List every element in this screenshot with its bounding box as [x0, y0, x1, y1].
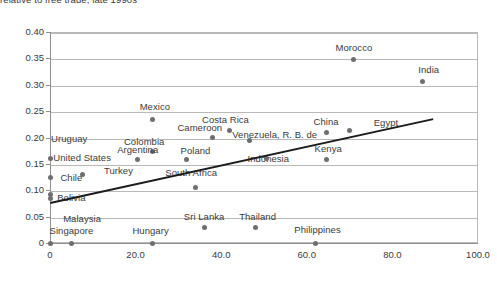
- data-point[interactable]: [69, 241, 74, 246]
- point-label: Morocco: [335, 42, 372, 53]
- point-label: United States: [53, 152, 111, 163]
- y-tick-mark: [46, 85, 50, 86]
- y-tick-label: 0.10: [0, 184, 44, 195]
- data-point[interactable]: [193, 185, 198, 190]
- y-tick-label: 0.05: [0, 211, 44, 222]
- data-point[interactable]: [253, 225, 258, 230]
- point-label: Mexico: [140, 101, 170, 112]
- chart-title: relative to free trade, late 1990s: [0, 0, 137, 5]
- point-label: Argentina: [117, 144, 158, 155]
- data-point[interactable]: [150, 241, 155, 246]
- y-tick-mark: [46, 58, 50, 59]
- x-tick-label: 100.0: [454, 249, 497, 260]
- point-label: Philippines: [294, 224, 341, 235]
- x-tick-label: 0: [26, 249, 74, 260]
- y-tick-label: 0: [0, 237, 44, 248]
- gridline: [51, 112, 477, 113]
- data-point[interactable]: [324, 130, 329, 135]
- y-tick-label: 0.15: [0, 158, 44, 169]
- data-point[interactable]: [48, 156, 53, 161]
- point-label: Poland: [181, 145, 211, 156]
- x-tick-label: 60.0: [283, 249, 331, 260]
- y-tick-mark: [46, 217, 50, 218]
- data-point[interactable]: [48, 196, 53, 201]
- gridline: [51, 86, 477, 87]
- data-point[interactable]: [324, 157, 329, 162]
- point-label: Singapore: [50, 225, 94, 236]
- y-tick-label: 0.30: [0, 79, 44, 90]
- y-tick-label: 0.20: [0, 132, 44, 143]
- point-label: Cameroon: [177, 122, 222, 133]
- y-tick-label: 0.40: [0, 26, 44, 37]
- y-tick-mark: [46, 32, 50, 33]
- y-tick-mark: [46, 138, 50, 139]
- point-label: Venezuela, R. B. de: [232, 129, 317, 140]
- y-tick-label: 0.25: [0, 105, 44, 116]
- x-axis-line: [50, 243, 478, 244]
- y-tick-mark: [46, 111, 50, 112]
- point-label: India: [418, 64, 439, 75]
- y-tick-label: 0.35: [0, 52, 44, 63]
- scatter-chart: relative to free trade, late 1990s 00.05…: [0, 0, 497, 285]
- data-point[interactable]: [313, 241, 318, 246]
- gridline: [51, 59, 477, 60]
- point-label: Uruguay: [51, 133, 87, 144]
- point-label: Hungary: [132, 225, 168, 236]
- point-label: Thailand: [239, 211, 276, 222]
- data-point[interactable]: [202, 225, 207, 230]
- x-tick-label: 40.0: [197, 249, 245, 260]
- y-tick-mark: [46, 190, 50, 191]
- data-point[interactable]: [247, 138, 252, 143]
- data-point[interactable]: [48, 241, 53, 246]
- x-tick-label: 20.0: [112, 249, 160, 260]
- gridline: [51, 191, 477, 192]
- data-point[interactable]: [420, 79, 425, 84]
- x-tick-label: 80.0: [368, 249, 416, 260]
- point-label: China: [314, 116, 339, 127]
- point-label: Sri Lanka: [184, 211, 225, 222]
- gridline: [51, 33, 477, 34]
- y-tick-mark: [46, 164, 50, 165]
- point-label: Chile: [60, 172, 82, 183]
- data-point[interactable]: [150, 117, 155, 122]
- point-label: Turkey: [104, 165, 133, 176]
- data-point[interactable]: [48, 175, 53, 180]
- point-label: Malaysia: [63, 213, 101, 224]
